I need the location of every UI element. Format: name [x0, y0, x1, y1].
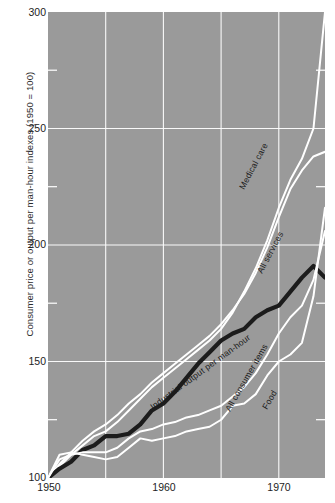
series-line-food — [48, 208, 325, 478]
y-axis-tick-labels: 300 250 200 150 100 — [0, 0, 46, 503]
chart-figure: Consumer price or output per man-hour in… — [0, 0, 335, 503]
y-tick-250: 250 — [2, 122, 46, 134]
series-line-all-services — [48, 152, 325, 478]
x-tick-1960: 1960 — [144, 481, 184, 493]
chart-canvas: Medical careAll servicesIndustrial outpu… — [48, 12, 325, 478]
curve-label-all-services: All services — [255, 230, 285, 275]
curve-label-medical-care: Medical care — [237, 141, 270, 191]
y-tick-200: 200 — [2, 238, 46, 250]
y-tick-150: 150 — [2, 355, 46, 367]
y-tick-300: 300 — [2, 6, 46, 18]
plot-area: Medical careAll servicesIndustrial outpu… — [48, 12, 325, 478]
series-line-industrial-output-per-man-hour — [48, 266, 325, 478]
x-tick-1950: 1950 — [29, 481, 69, 493]
x-tick-1970: 1970 — [259, 481, 299, 493]
curve-label-food: Food — [260, 388, 279, 411]
